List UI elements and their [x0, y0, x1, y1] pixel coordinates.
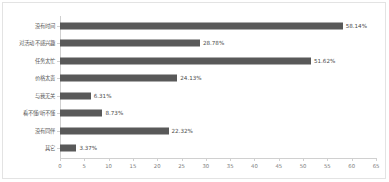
x-axis-tick-label: 30: [202, 163, 209, 169]
bar-value-label: 8.73%: [105, 110, 123, 116]
category-label: 没有同伴: [35, 127, 55, 135]
x-axis-tick-label: 35: [227, 163, 234, 169]
bar: [60, 22, 343, 29]
x-axis-tick-label: 55: [324, 163, 331, 169]
bar-value-label: 3.37%: [79, 145, 97, 151]
category-label: 与我无关: [35, 92, 55, 100]
x-axis-tick-label: 10: [105, 163, 112, 169]
category-label: 价格太贵: [35, 74, 55, 82]
plot-area: 没有时间58.14%对活动不感兴趣28.78%任务太忙51.62%价格太贵24.…: [60, 17, 376, 157]
bar-value-label: 28.78%: [203, 40, 224, 46]
x-axis-tick: [327, 158, 328, 161]
x-axis-tick-label: 60: [348, 163, 355, 169]
category-label: 对活动不感兴趣: [19, 39, 55, 47]
bar-value-label: 24.13%: [180, 75, 201, 81]
bar: [60, 127, 169, 134]
x-axis-tick: [157, 158, 158, 161]
x-axis-tick: [109, 158, 110, 161]
category-label: 其它: [45, 144, 55, 152]
x-axis-tick: [279, 158, 280, 161]
category-label: 任务太忙: [35, 57, 55, 65]
bar-value-label: 22.32%: [172, 128, 193, 134]
x-axis-tick-label: 40: [251, 163, 258, 169]
x-axis-tick: [206, 158, 207, 161]
bar-row: 看不懂/听不懂8.73%: [60, 105, 376, 123]
x-axis-tick-label: 20: [154, 163, 161, 169]
x-axis-tick-label: 65: [373, 163, 380, 169]
x-axis-tick: [303, 158, 304, 161]
x-axis-tick: [254, 158, 255, 161]
bar-value-label: 58.14%: [346, 23, 367, 29]
bar: [60, 75, 177, 82]
x-axis-tick: [376, 158, 377, 161]
bar-row: 没有时间58.14%: [60, 17, 376, 35]
bar-value-label: 51.62%: [314, 58, 335, 64]
bar-row: 没有同伴22.32%: [60, 122, 376, 140]
x-axis-tick-label: 50: [300, 163, 307, 169]
bar-row: 其它3.37%: [60, 140, 376, 158]
x-axis-tick: [133, 158, 134, 161]
x-axis-tick: [60, 158, 61, 161]
x-axis-line: [60, 158, 377, 159]
bar: [60, 57, 311, 64]
x-axis-tick: [84, 158, 85, 161]
chart-frame: 没有时间58.14%对活动不感兴趣28.78%任务太忙51.62%价格太贵24.…: [2, 2, 386, 179]
bar-value-label: 6.31%: [94, 93, 112, 99]
bar-row: 对活动不感兴趣28.78%: [60, 35, 376, 53]
x-axis-tick: [352, 158, 353, 161]
x-axis-tick-label: 15: [130, 163, 137, 169]
x-axis-tick-label: 45: [275, 163, 282, 169]
x-axis-tick: [182, 158, 183, 161]
bar-row: 价格太贵24.13%: [60, 70, 376, 88]
category-label: 看不懂/听不懂: [23, 109, 56, 117]
bar: [60, 110, 102, 117]
bar: [60, 40, 200, 47]
bar-row: 与我无关6.31%: [60, 87, 376, 105]
x-axis-tick-label: 25: [178, 163, 185, 169]
x-axis-tick: [230, 158, 231, 161]
bar: [60, 92, 91, 99]
bar-row: 任务太忙51.62%: [60, 52, 376, 70]
x-axis-tick-label: 0: [58, 163, 61, 169]
bar: [60, 145, 76, 152]
x-axis-tick-label: 5: [83, 163, 86, 169]
category-label: 没有时间: [35, 22, 55, 30]
